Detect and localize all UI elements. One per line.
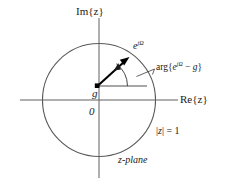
plane-label: z-plane — [118, 155, 147, 165]
arg-prefix: arg{ — [156, 62, 173, 72]
arg-label-leader-line — [137, 69, 155, 77]
point-label-g: g — [92, 88, 98, 99]
magnitude-suffix: | = 1 — [162, 125, 180, 136]
figure-canvas — [0, 0, 227, 181]
z-plane-figure: Im{z} Re{z} 0 g ejΩ arg{ejΩ − g} |z| = 1… — [0, 0, 227, 181]
ejomega-exponent: jΩ — [137, 39, 143, 46]
arg-suffix: } — [198, 62, 203, 72]
vector-g-to-ejomega — [98, 62, 125, 87]
imaginary-axis-label: Im{z} — [76, 6, 104, 17]
ejomega-label: ejΩ — [133, 40, 144, 51]
real-axis-label: Re{z} — [180, 94, 208, 105]
unit-circle-label: |z| = 1 — [156, 126, 180, 136]
arg-minus: − — [183, 62, 193, 72]
arg-expression-label: arg{ejΩ − g} — [156, 62, 202, 73]
origin-label: 0 — [89, 106, 95, 117]
